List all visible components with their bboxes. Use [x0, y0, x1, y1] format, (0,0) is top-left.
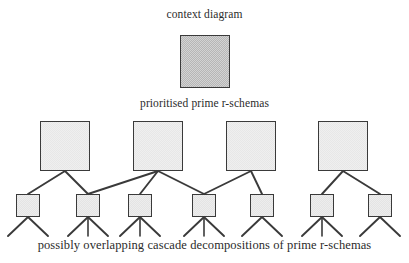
diagram-canvas: context diagram prioritised prime r-sche… [0, 0, 409, 263]
prime-r-schema-node-1 [40, 121, 90, 171]
leg-6-c [322, 217, 342, 236]
cascade-node-6 [310, 194, 334, 217]
prime-r-schema-node-4 [318, 121, 368, 171]
edge-p3-c4 [204, 171, 251, 194]
edge-p2-c4 [158, 171, 204, 194]
leg-3-c [140, 217, 160, 236]
leg-2-c [88, 217, 108, 236]
cascade-node-2 [76, 194, 100, 217]
cascade-decompositions-caption: possibly overlapping cascade decompositi… [0, 238, 409, 253]
leg-5-a [242, 217, 262, 236]
edge-p2-c2 [88, 171, 158, 194]
leg-1-a [8, 217, 28, 236]
leg-4-a [184, 217, 204, 236]
edge-p3-c5 [251, 171, 262, 194]
cascade-node-7 [368, 194, 392, 217]
prime-r-schema-node-3 [226, 121, 276, 171]
leg-4-c [204, 217, 224, 236]
leg-6-a [302, 217, 322, 236]
context-diagram-node [180, 35, 230, 88]
leg-7-b [380, 217, 400, 236]
leg-5-b [262, 217, 282, 236]
leg-2-a [68, 217, 88, 236]
cascade-node-1 [16, 194, 40, 217]
edge-p1-c1 [28, 171, 65, 194]
edge-p4-c6 [322, 171, 343, 194]
leg-1-b [28, 217, 48, 236]
leg-3-a [120, 217, 140, 236]
cascade-node-4 [192, 194, 216, 217]
leg-7-a [360, 217, 380, 236]
cascade-node-5 [250, 194, 274, 217]
cascade-node-3 [128, 194, 152, 217]
edge-p1-c2 [65, 171, 88, 194]
edge-p4-c7 [343, 171, 380, 194]
prime-r-schema-node-2 [133, 121, 183, 171]
